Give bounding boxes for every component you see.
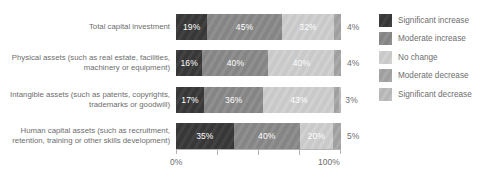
bar-segment: 40%: [202, 50, 268, 76]
category-label-physical-assets: Physical assets (such as real estate, fa…: [8, 53, 170, 72]
category-label-total-capital-investment: Total capital investment: [8, 22, 170, 32]
axis-tick: [258, 150, 259, 155]
legend-item-label: Moderate decrease: [398, 71, 469, 80]
legend: Significant increase Moderate increase N…: [379, 11, 494, 104]
bar-segment: 35%: [176, 123, 234, 149]
bar-segment-label: 36%: [225, 95, 242, 105]
bar-segment: 40%: [268, 50, 334, 76]
bar-segment-label: 5%: [347, 131, 360, 141]
bar-segment: 19%: [176, 14, 207, 40]
legend-item-label: No change: [398, 53, 438, 62]
legend-item-significant-increase[interactable]: Significant increase: [379, 11, 494, 30]
category-label-intangible-assets: Intangible assets (such as patents, copy…: [8, 90, 170, 109]
bar-row: 35% 40% 20% 5%: [176, 123, 341, 149]
legend-swatch-icon: [379, 32, 392, 45]
legend-item-label: Significant increase: [398, 16, 469, 25]
bar-row: 19% 45% 32% 4%: [176, 14, 341, 40]
axis-label-max: 100%: [318, 157, 340, 167]
axis-label-min: 0%: [170, 157, 182, 167]
legend-item-label: Significant decrease: [398, 90, 472, 99]
x-axis: [176, 149, 341, 154]
bar-segment: 40%: [234, 123, 300, 149]
legend-item-no-change[interactable]: No change: [379, 48, 494, 67]
axis-tick: [217, 150, 218, 155]
bar-segment-label: 16%: [181, 58, 198, 68]
bar-segment-label: 40%: [227, 58, 244, 68]
bar-row: 16% 40% 40% 4%: [176, 50, 341, 76]
bar-segment-label: 20%: [308, 131, 325, 141]
bar-segment-label: 43%: [290, 95, 307, 105]
bar-segment-label: 3%: [345, 95, 358, 105]
bar-segment: 43%: [263, 87, 334, 113]
bar-segment: 45%: [207, 14, 281, 40]
bar-segment-label: 4%: [347, 58, 360, 68]
bar-segment-label: 35%: [196, 131, 213, 141]
bar-segment: 4%: [334, 14, 341, 40]
bar-segment-label: 40%: [258, 131, 275, 141]
legend-swatch-icon: [379, 88, 392, 101]
legend-swatch-icon: [379, 51, 392, 64]
bar-segment: 20%: [300, 123, 333, 149]
legend-item-moderate-increase[interactable]: Moderate increase: [379, 30, 494, 49]
legend-item-label: Moderate increase: [398, 34, 466, 43]
bar-segment-label: 40%: [293, 58, 310, 68]
bar-segment-label: 32%: [299, 22, 316, 32]
category-label-human-capital-assets: Human capital assets (such as recruitmen…: [8, 126, 170, 145]
bar-segment-label: 17%: [181, 95, 198, 105]
bar-segment: 32%: [282, 14, 335, 40]
bar-segment: [339, 87, 341, 113]
legend-item-moderate-decrease[interactable]: Moderate decrease: [379, 67, 494, 86]
bar-segment-label: 4%: [347, 22, 360, 32]
legend-item-significant-decrease[interactable]: Significant decrease: [379, 85, 494, 104]
bar-row: 17% 36% 43% 3%: [176, 87, 341, 113]
bar-segment: 16%: [176, 50, 202, 76]
bar-segment-label: 19%: [183, 22, 200, 32]
plot-area: 19% 45% 32% 4% 16% 40% 40% 4% 17% 36% 43…: [176, 12, 341, 149]
axis-tick: [299, 150, 300, 155]
chart-container: Total capital investment Physical assets…: [0, 0, 494, 180]
bar-segment: 5%: [333, 123, 341, 149]
bar-segment: 36%: [204, 87, 263, 113]
bar-segment: 4%: [334, 50, 341, 76]
legend-swatch-icon: [379, 14, 392, 27]
bar-segment-label: 45%: [236, 22, 253, 32]
bar-segment: 17%: [176, 87, 204, 113]
legend-swatch-icon: [379, 69, 392, 82]
